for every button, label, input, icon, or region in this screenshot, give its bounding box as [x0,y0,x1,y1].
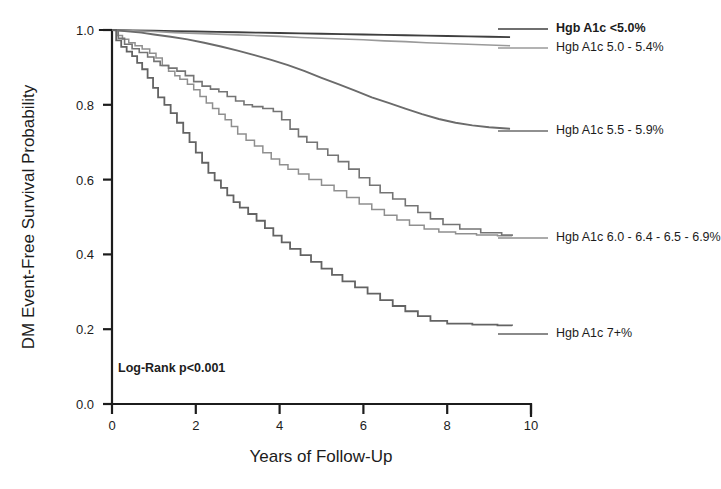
y-tick-label: 0.8 [76,98,94,113]
x-axis-line [112,404,531,416]
log-rank-annotation: Log-Rank p<0.001 [118,361,225,375]
x-tick-label: 10 [524,418,538,433]
survival-curve [112,30,512,236]
y-axis-line [100,30,112,404]
x-tick-label: 4 [276,418,283,433]
x-axis-ticks: 0246810 [108,404,538,433]
x-tick-label: 8 [444,418,451,433]
legend-label: Hgb A1c <5.0% [556,21,646,35]
survival-chart-svg: 0.00.20.40.60.81.0 0246810 Hgb A1c <5.0%… [0,0,721,489]
y-tick-label: 0.4 [76,247,94,262]
kaplan-meier-figure: 0.00.20.40.60.81.0 0246810 Hgb A1c <5.0%… [0,0,721,489]
series-legend: Hgb A1c <5.0%Hgb A1c 5.0 - 5.4%Hgb A1c 5… [498,21,721,340]
y-tick-label: 0.2 [76,322,94,337]
y-axis-title: DM Event-Free Survival Probability [19,84,38,349]
legend-label: Hgb A1c 6.0 - 6.4 - 6.5 - 6.9% [556,230,721,244]
y-tick-label: 0.0 [76,397,94,412]
legend-label: Hgb A1c 5.0 - 5.4% [556,40,664,54]
y-tick-label: 1.0 [76,23,94,38]
survival-curve [112,30,512,236]
x-tick-label: 6 [360,418,367,433]
x-tick-label: 0 [108,418,115,433]
x-axis-title: Years of Follow-Up [250,447,393,466]
x-tick-label: 2 [192,418,199,433]
y-tick-label: 0.6 [76,173,94,188]
y-axis-ticks: 0.00.20.40.60.81.0 [76,23,112,412]
legend-label: Hgb A1c 7+% [556,326,632,340]
legend-label: Hgb A1c 5.5 - 5.9% [556,123,664,137]
survival-curves [112,30,512,326]
